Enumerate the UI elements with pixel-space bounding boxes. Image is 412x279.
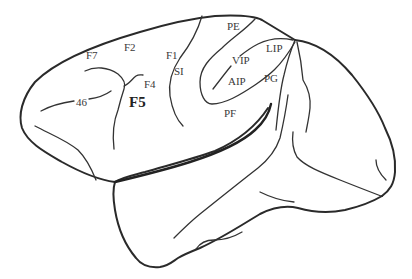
lunate-sulcus <box>297 42 310 132</box>
orbital-sulcus <box>35 126 96 180</box>
label-f4: F4 <box>144 78 156 90</box>
principal-sulcus-right <box>89 91 111 99</box>
sylvian-fissure <box>115 104 271 182</box>
label-f1: F1 <box>166 49 178 61</box>
label-46: 46 <box>76 96 88 108</box>
label-f2: F2 <box>124 41 136 53</box>
occipital-small-sulcus <box>376 160 386 180</box>
label-vip: VIP <box>232 54 250 66</box>
brain-outline <box>21 15 295 182</box>
brain-svg: F7 F2 F1 SI F4 F5 46 PE VIP LIP AIP PG P… <box>0 0 412 279</box>
label-f5: F5 <box>129 94 146 110</box>
label-f7: F7 <box>86 49 98 61</box>
principal-sulcus-left <box>41 101 74 111</box>
arcuate-sulcus <box>85 68 125 149</box>
label-si: SI <box>174 65 184 77</box>
label-pf: PF <box>224 107 236 119</box>
inferior-temporal-sulcus-a <box>260 192 294 202</box>
temporal-outline <box>114 108 383 267</box>
arcuate-spur <box>124 75 143 86</box>
brain-diagram: F7 F2 F1 SI F4 F5 46 PE VIP LIP AIP PG P… <box>0 0 412 279</box>
label-pe: PE <box>227 20 240 32</box>
label-aip: AIP <box>228 75 246 87</box>
label-lip: LIP <box>266 42 283 54</box>
label-pg: PG <box>264 72 278 84</box>
occipital-temporal-sulcus <box>293 132 381 196</box>
